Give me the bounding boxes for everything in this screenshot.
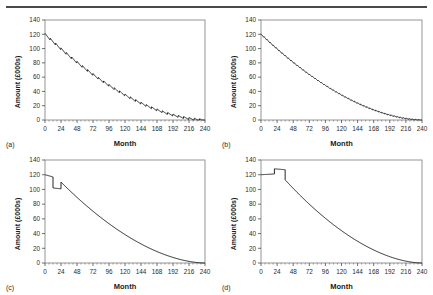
svg-text:96: 96 [322, 125, 330, 132]
svg-text:0: 0 [259, 268, 263, 275]
svg-text:20: 20 [33, 245, 41, 252]
svg-text:0: 0 [43, 268, 47, 275]
svg-text:40: 40 [33, 88, 41, 95]
svg-text:60: 60 [249, 215, 257, 222]
svg-text:120: 120 [245, 31, 256, 38]
svg-text:100: 100 [29, 45, 40, 52]
svg-text:96: 96 [105, 268, 113, 275]
panel-d: Amount (£000s) Month (d) 020406080100120… [216, 152, 433, 295]
svg-text:120: 120 [120, 125, 131, 132]
svg-text:48: 48 [290, 125, 298, 132]
svg-text:80: 80 [249, 200, 257, 207]
svg-text:100: 100 [29, 186, 40, 193]
svg-text:240: 240 [200, 125, 211, 132]
svg-text:0: 0 [36, 116, 40, 123]
svg-text:0: 0 [43, 125, 47, 132]
panel-b: Amount (£000s) Month (b) 020406080100120… [216, 12, 433, 152]
svg-text:72: 72 [306, 268, 314, 275]
panel-c-y-axis-label: Amount (£000s) [14, 181, 21, 267]
panel-d-tag: (d) [222, 284, 231, 291]
svg-text:144: 144 [136, 125, 147, 132]
svg-text:168: 168 [152, 125, 163, 132]
panel-a: Amount (£000s) Month (a) 020406080100120… [0, 12, 216, 152]
svg-text:168: 168 [368, 268, 379, 275]
panel-b-x-axis-label: Month [260, 139, 423, 148]
svg-text:80: 80 [249, 59, 257, 66]
svg-text:72: 72 [89, 125, 97, 132]
svg-text:192: 192 [384, 268, 395, 275]
svg-text:20: 20 [249, 245, 257, 252]
svg-text:60: 60 [249, 73, 257, 80]
panel-c-x-axis-label: Month [44, 282, 206, 291]
figure-panel-grid: Amount (£000s) Month (a) 020406080100120… [0, 12, 433, 295]
svg-text:0: 0 [252, 116, 256, 123]
panel-a-plot: 0204060801001201400244872961201441681922… [0, 12, 216, 152]
panel-b-tag: (b) [222, 141, 231, 148]
svg-text:216: 216 [401, 125, 412, 132]
panel-c-tag: (c) [6, 284, 14, 291]
svg-text:48: 48 [73, 268, 81, 275]
panel-d-x-axis-label: Month [260, 282, 423, 291]
svg-text:24: 24 [274, 268, 282, 275]
svg-text:140: 140 [245, 16, 256, 23]
svg-text:144: 144 [352, 125, 363, 132]
svg-text:96: 96 [322, 268, 330, 275]
svg-text:40: 40 [249, 230, 257, 237]
panel-b-y-axis-label: Amount (£000s) [230, 39, 237, 125]
svg-text:0: 0 [259, 125, 263, 132]
svg-text:192: 192 [384, 125, 395, 132]
svg-text:80: 80 [33, 200, 41, 207]
panel-a-tag: (a) [6, 141, 15, 148]
svg-text:60: 60 [33, 215, 41, 222]
panel-a-x-axis-label: Month [44, 139, 206, 148]
top-horizontal-rule [6, 6, 427, 8]
svg-text:168: 168 [152, 268, 163, 275]
svg-text:60: 60 [33, 73, 41, 80]
svg-text:140: 140 [245, 156, 256, 163]
svg-text:48: 48 [290, 268, 298, 275]
svg-text:120: 120 [120, 268, 131, 275]
svg-text:240: 240 [417, 268, 428, 275]
svg-text:216: 216 [184, 125, 195, 132]
svg-text:24: 24 [57, 125, 65, 132]
svg-text:72: 72 [306, 125, 314, 132]
svg-text:192: 192 [168, 268, 179, 275]
svg-text:144: 144 [136, 268, 147, 275]
svg-text:168: 168 [368, 125, 379, 132]
svg-text:144: 144 [352, 268, 363, 275]
svg-text:20: 20 [249, 102, 257, 109]
svg-text:120: 120 [336, 268, 347, 275]
svg-text:120: 120 [29, 31, 40, 38]
svg-text:240: 240 [200, 268, 211, 275]
panel-a-y-axis-label: Amount (£000s) [14, 39, 21, 125]
svg-text:0: 0 [252, 259, 256, 266]
svg-text:120: 120 [245, 171, 256, 178]
svg-text:96: 96 [105, 125, 113, 132]
svg-text:24: 24 [57, 268, 65, 275]
panel-d-y-axis-label: Amount (£000s) [230, 181, 237, 267]
panel-c-plot: 0204060801001201400244872961201441681922… [0, 152, 216, 295]
svg-text:24: 24 [274, 125, 282, 132]
svg-text:120: 120 [29, 171, 40, 178]
panel-b-plot: 0204060801001201400244872961201441681922… [216, 12, 433, 152]
svg-text:240: 240 [417, 125, 428, 132]
svg-text:192: 192 [168, 125, 179, 132]
panel-d-plot: 0204060801001201400244872961201441681922… [216, 152, 433, 295]
svg-text:72: 72 [89, 268, 97, 275]
svg-text:216: 216 [184, 268, 195, 275]
svg-text:100: 100 [245, 45, 256, 52]
svg-text:40: 40 [33, 230, 41, 237]
svg-text:140: 140 [29, 16, 40, 23]
svg-text:216: 216 [401, 268, 412, 275]
svg-text:100: 100 [245, 186, 256, 193]
svg-text:48: 48 [73, 125, 81, 132]
svg-text:80: 80 [33, 59, 41, 66]
svg-text:0: 0 [36, 259, 40, 266]
svg-text:40: 40 [249, 88, 257, 95]
svg-text:20: 20 [33, 102, 41, 109]
panel-c: Amount (£000s) Month (c) 020406080100120… [0, 152, 216, 295]
svg-text:140: 140 [29, 156, 40, 163]
svg-text:120: 120 [336, 125, 347, 132]
